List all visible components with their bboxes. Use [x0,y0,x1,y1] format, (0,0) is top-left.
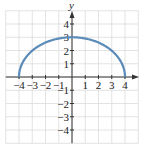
x-tick-label: 4 [122,79,128,91]
x-tick-label: −4 [13,79,25,91]
x-tick-label: 3 [109,79,115,91]
x-tick-label: 1 [83,79,89,91]
axes [6,11,139,143]
y-tick-label: 2 [64,45,70,57]
y-tick-label: −3 [57,111,69,123]
y-tick-label: −4 [57,124,69,136]
y-tick-label: −1 [57,84,69,96]
y-axis-label: y [68,0,74,11]
y-tick-label: −2 [57,98,69,110]
y-axis-arrow-icon [70,11,75,18]
x-tick-label: −3 [26,79,38,91]
chart: −4−3−2−11234−4−3−2−11234 y [0,0,142,148]
x-tick-label: 2 [96,79,102,91]
x-tick-label: −2 [40,79,52,91]
y-tick-label: 4 [64,18,70,30]
y-tick-label: 1 [64,58,70,70]
